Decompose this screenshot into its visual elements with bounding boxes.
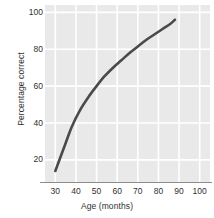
y-tick-label: 80	[21, 45, 43, 54]
x-axis-tick-labels: 30405060708090100	[0, 187, 214, 199]
x-axis-line	[40, 182, 212, 183]
x-tick-label: 100	[188, 187, 212, 196]
chart-canvas	[45, 5, 210, 182]
y-axis-tick-labels: 20406080100	[18, 0, 43, 218]
y-tick-label: 100	[21, 8, 43, 17]
chart-figure: Percentage correct 20406080100 304050607…	[0, 0, 214, 218]
y-tick-label: 20	[21, 155, 43, 164]
plot-background	[45, 5, 210, 182]
y-tick-label: 60	[21, 82, 43, 91]
plot-area	[45, 5, 210, 182]
x-axis-label: Age (months)	[0, 201, 214, 211]
y-tick-label: 40	[21, 119, 43, 128]
